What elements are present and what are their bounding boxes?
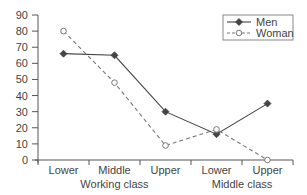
y-tick-label: 80 <box>16 25 28 37</box>
y-axis-ticks: 0102030405060708090 <box>16 9 38 166</box>
y-tick-label: 50 <box>16 73 28 85</box>
series-layer <box>60 28 271 162</box>
data-point-woman <box>214 127 220 133</box>
series-line-woman <box>64 31 268 160</box>
data-point-woman <box>61 28 67 34</box>
data-point-men <box>60 50 67 57</box>
y-tick-label: 70 <box>16 41 28 53</box>
x-category-label: Upper <box>253 164 283 176</box>
series-men <box>60 50 271 138</box>
y-tick-label: 30 <box>16 106 28 118</box>
y-tick-label: 90 <box>16 9 28 21</box>
data-point-woman <box>265 157 271 163</box>
data-point-woman <box>163 143 169 149</box>
data-point-men <box>264 100 271 107</box>
data-point-woman <box>112 80 118 86</box>
y-tick-label: 20 <box>16 122 28 134</box>
y-tick-label: 40 <box>16 90 28 102</box>
x-axis-ticks: LowerMiddleUpperLowerUpperWorking classM… <box>38 160 293 190</box>
x-group-label: Working class <box>80 178 149 190</box>
x-category-label: Lower <box>202 164 232 176</box>
line-chart: 0102030405060708090 LowerMiddleUpperLowe… <box>0 0 307 195</box>
y-tick-label: 10 <box>16 138 28 150</box>
y-tick-label: 60 <box>16 57 28 69</box>
x-category-label: Lower <box>49 164 79 176</box>
x-category-label: Middle <box>98 164 130 176</box>
legend: MenWoman <box>223 15 294 40</box>
x-group-label: Middle class <box>212 178 273 190</box>
x-category-label: Upper <box>151 164 181 176</box>
y-tick-label: 0 <box>22 154 28 166</box>
legend-label: Woman <box>256 27 294 39</box>
legend-marker-woman <box>236 30 242 36</box>
series-woman <box>61 28 271 162</box>
series-line-men <box>64 54 268 135</box>
